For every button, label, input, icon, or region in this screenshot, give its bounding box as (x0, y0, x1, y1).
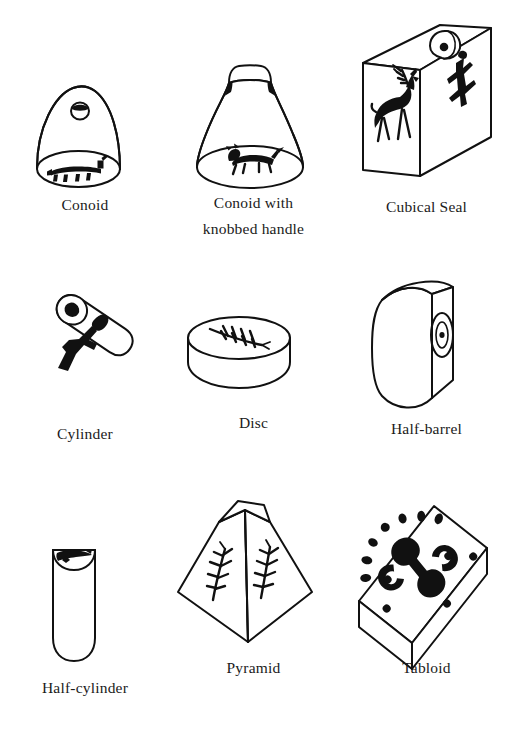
conoid-knobbed-handle-drawing (166, 48, 341, 208)
figure-item-cubical-seal: Cubical Seal (340, 8, 513, 208)
seal-shapes-figure-plate: Conoid (0, 0, 513, 729)
conoid-knobbed-base-ellipse (197, 146, 303, 188)
half-barrel-front-face (432, 287, 453, 398)
caption-tabloid: Tabloid (340, 655, 513, 681)
pyramid-right-face (245, 510, 312, 642)
figure-item-tabloid: Tabloid (340, 492, 513, 710)
figure-item-conoid-knobbed-handle: Conoid with knobbed handle (166, 48, 341, 208)
half-barrel-center-dot (439, 332, 444, 338)
caption-disc: Disc (166, 410, 341, 436)
figure-item-disc: Disc (166, 300, 341, 440)
caption-cubical-seal: Cubical Seal (340, 194, 513, 220)
caption-half-cylinder: Half-cylinder (0, 675, 170, 701)
caption-half-barrel: Half-barrel (340, 416, 513, 442)
figure-item-half-cylinder: Half-cylinder (0, 520, 170, 710)
cylinder-drawing (0, 268, 170, 438)
figure-item-half-barrel: Half-barrel (340, 272, 513, 440)
half-barrel-body (372, 288, 432, 408)
figure-item-conoid: Conoid (0, 55, 170, 205)
caption-cylinder: Cylinder (0, 421, 170, 447)
caption-pyramid: Pyramid (166, 655, 341, 681)
caption-conoid: Conoid (0, 192, 170, 218)
caption-conoid-knobbed-handle: Conoid with knobbed handle (166, 190, 341, 242)
conoid-drawing (0, 55, 170, 205)
half-barrel-drawing (340, 272, 513, 440)
figure-item-cylinder: Cylinder (0, 268, 170, 438)
cubical-seal-handle-hole (440, 43, 449, 52)
cubical-seal-drawing (340, 8, 513, 208)
figure-item-pyramid: Pyramid (166, 492, 341, 710)
